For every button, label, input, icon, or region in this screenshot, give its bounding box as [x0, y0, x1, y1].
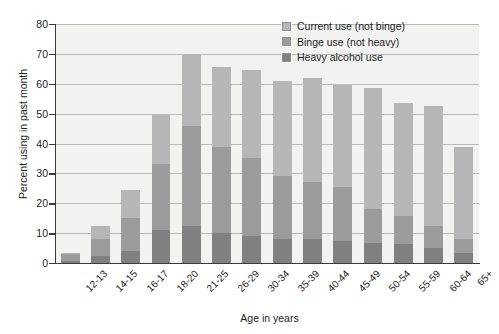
bar-segment — [303, 78, 322, 182]
bar-55-59 — [394, 103, 413, 263]
legend-item: Binge use (not heavy) — [281, 36, 405, 48]
bar-segment — [91, 226, 110, 239]
bar-segment — [454, 239, 473, 252]
legend-item: Current use (not binge) — [281, 20, 405, 32]
bar-14-15 — [91, 226, 110, 263]
legend-swatch-icon — [281, 21, 292, 32]
legend-swatch-icon — [281, 52, 292, 63]
x-tick-label-65+: 65+ — [475, 268, 495, 288]
bar-segment — [333, 241, 352, 263]
bar-16-17 — [121, 190, 140, 263]
bar-segment — [61, 254, 80, 261]
bar-26-29 — [212, 67, 231, 263]
bar-segment — [242, 158, 261, 236]
bar-segment — [394, 103, 413, 216]
x-tick-label-40-44: 40-44 — [326, 268, 352, 294]
bar-segment — [212, 67, 231, 146]
bar-segment — [182, 126, 201, 226]
bar-segment — [91, 256, 110, 263]
bar-65+ — [454, 147, 473, 264]
bar-segment — [212, 147, 231, 233]
bar-segment — [424, 106, 443, 226]
chart-legend: Current use (not binge)Binge use (not he… — [281, 20, 405, 63]
bar-series-container — [55, 24, 479, 263]
bar-segment — [182, 54, 201, 126]
legend-label: Binge use (not heavy) — [297, 36, 399, 48]
bar-segment — [182, 226, 201, 263]
y-tick-0 — [49, 263, 55, 264]
x-tick-label-18-20: 18-20 — [174, 268, 200, 294]
bar-12-13 — [61, 253, 80, 263]
bar-segment — [394, 244, 413, 263]
bar-segment — [121, 218, 140, 251]
bar-segment — [242, 70, 261, 158]
alcohol-use-bar-chart: 01020304050607080 Percent using in past … — [0, 0, 499, 334]
bar-segment — [364, 209, 383, 242]
x-tick-label-30-34: 30-34 — [265, 268, 291, 294]
x-tick-label-55-59: 55-59 — [417, 268, 443, 294]
bar-35-39 — [273, 81, 292, 263]
x-tick-label-50-54: 50-54 — [386, 268, 412, 294]
x-tick-label-12-13: 12-13 — [84, 268, 110, 294]
bar-segment — [91, 239, 110, 255]
bar-segment — [242, 236, 261, 263]
bar-segment — [273, 239, 292, 263]
bar-45-49 — [333, 85, 352, 263]
x-tick-label-26-29: 26-29 — [235, 268, 261, 294]
bar-40-44 — [303, 78, 322, 263]
y-tick-label-80: 80 — [2, 18, 48, 30]
legend-label: Current use (not binge) — [297, 20, 405, 32]
bar-segment — [364, 243, 383, 263]
bar-50-54 — [364, 88, 383, 263]
bar-18-20 — [152, 115, 171, 263]
bar-segment — [212, 233, 231, 263]
x-axis-title: Age in years — [0, 312, 499, 324]
bar-segment — [273, 81, 292, 177]
bar-segment — [152, 230, 171, 263]
y-tick-label-0: 0 — [2, 257, 48, 269]
x-tick-label-45-49: 45-49 — [356, 268, 382, 294]
bar-segment — [424, 248, 443, 263]
y-axis-title: Percent using in past month — [17, 34, 29, 234]
x-tick-label-16-17: 16-17 — [144, 268, 170, 294]
bar-segment — [152, 164, 171, 230]
bar-segment — [152, 115, 171, 164]
bar-segment — [61, 261, 80, 263]
bar-segment — [303, 182, 322, 239]
bar-segment — [424, 226, 443, 248]
bar-60-64 — [424, 106, 443, 263]
bar-segment — [333, 187, 352, 241]
legend-swatch-icon — [281, 36, 292, 47]
x-tick-label-21-25: 21-25 — [205, 268, 231, 294]
bar-segment — [303, 239, 322, 263]
legend-item: Heavy alcohol use — [281, 51, 405, 63]
legend-label: Heavy alcohol use — [297, 51, 383, 63]
bar-segment — [454, 253, 473, 263]
x-axis-line — [55, 263, 480, 264]
bar-segment — [121, 190, 140, 218]
bar-segment — [121, 251, 140, 263]
bar-segment — [364, 88, 383, 209]
x-tick-label-14-15: 14-15 — [114, 268, 140, 294]
bar-segment — [454, 147, 473, 240]
bar-21-25 — [182, 54, 201, 263]
bar-segment — [394, 216, 413, 244]
bar-segment — [333, 85, 352, 187]
x-tick-label-60-64: 60-64 — [447, 268, 473, 294]
x-tick-label-35-39: 35-39 — [296, 268, 322, 294]
bar-30-34 — [242, 70, 261, 263]
bar-segment — [273, 176, 292, 238]
